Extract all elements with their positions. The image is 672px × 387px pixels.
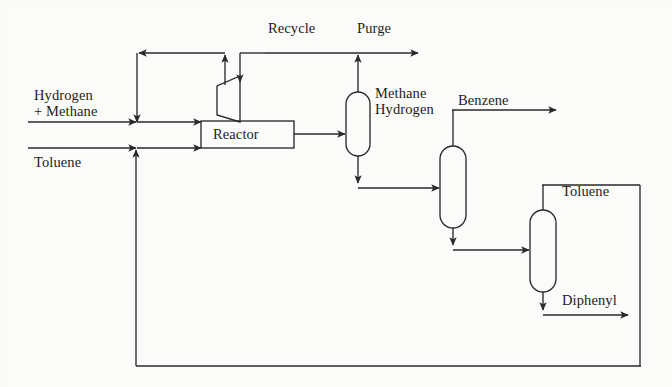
label-overhead-hydrogen: Hydrogen bbox=[375, 101, 434, 117]
label-recycle: Recycle bbox=[268, 20, 315, 36]
label-diphenyl-product: Diphenyl bbox=[562, 292, 617, 308]
label-purge: Purge bbox=[357, 20, 391, 36]
compressor-body bbox=[217, 76, 240, 122]
label-toluene-feed: Toluene bbox=[34, 154, 81, 170]
label-overhead-methane: Methane bbox=[375, 85, 426, 101]
label-reactor: Reactor bbox=[213, 126, 259, 142]
label-toluene-recycle: Toluene bbox=[562, 183, 609, 199]
column-2-body bbox=[530, 210, 556, 292]
flash-drum-body bbox=[346, 92, 370, 156]
process-flow-diagram: Hydrogen + Methane Toluene Recycle Purge… bbox=[0, 0, 672, 387]
column-1-body bbox=[440, 146, 466, 228]
label-hydrogen-feed-line1: Hydrogen bbox=[34, 87, 93, 103]
label-benzene-product: Benzene bbox=[458, 92, 509, 108]
label-hydrogen-feed-line2: + Methane bbox=[34, 103, 97, 119]
